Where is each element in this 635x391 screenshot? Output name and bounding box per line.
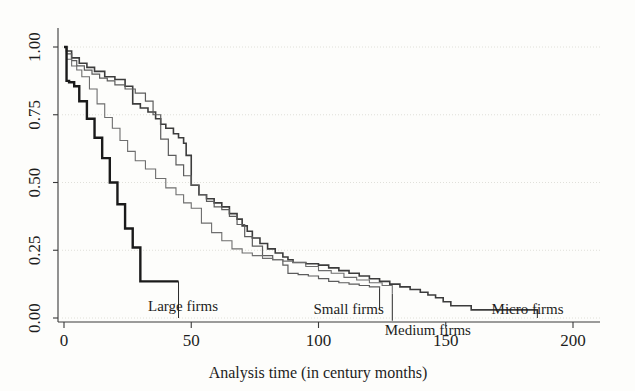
x-tick-label-2: 100 — [306, 331, 332, 350]
series-label-micro-firms: Micro firms — [492, 301, 564, 317]
y-tick-label-1: 0.25 — [25, 235, 44, 265]
x-axis-title: Analysis time (in century months) — [209, 364, 428, 382]
series-label-large-firms: Large firms — [148, 298, 218, 314]
y-tick-label-0: 0.00 — [25, 303, 44, 333]
y-tick-label-2: 0.50 — [25, 168, 44, 198]
x-tick-label-4: 200 — [560, 331, 586, 350]
y-tick-label-3: 0.75 — [25, 100, 44, 130]
x-tick-label-0: 0 — [60, 331, 69, 350]
y-tick-label-4: 1.00 — [25, 32, 44, 62]
series-label-small-firms: Small firms — [313, 301, 384, 317]
series-label-medium-firms: Medium firms — [385, 322, 471, 338]
kaplan-meier-chart: 0.000.250.500.751.00 050100150200 Large … — [0, 0, 635, 391]
survival-chart-figure: 0.000.250.500.751.00 050100150200 Large … — [0, 0, 635, 391]
x-tick-label-1: 50 — [183, 331, 200, 350]
